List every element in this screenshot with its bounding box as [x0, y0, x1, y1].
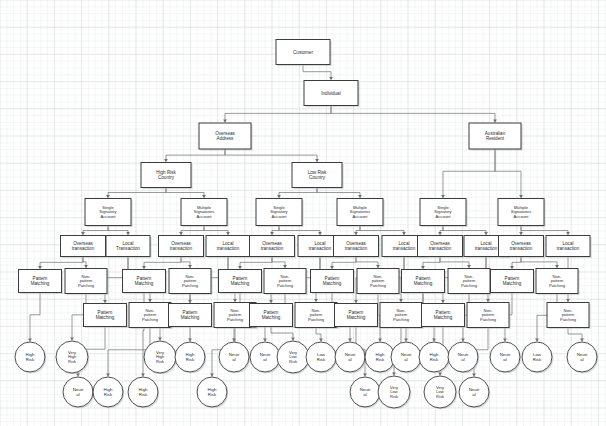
node-label: PatternMatching — [414, 276, 433, 286]
node-np-5[interactable]: Non-patternPatching — [264, 269, 308, 296]
node-pm-4[interactable]: PatternMatching — [169, 304, 214, 329]
node-label: Low RiskCountry — [308, 170, 327, 180]
node-ot-6[interactable]: Overseastransaction — [499, 236, 546, 259]
node-label: Overseastransaction — [261, 241, 284, 251]
node-label: PatternMatching — [96, 310, 115, 320]
node-np-2[interactable]: Non-patternPatching — [129, 303, 173, 330]
node-np-10[interactable]: Non-patternPatching — [467, 303, 511, 330]
leaf-label: HighRisk — [103, 387, 113, 397]
leaf-leaf-8[interactable]: HighRisk — [197, 377, 228, 408]
node-label: PatternMatching — [231, 276, 250, 286]
node-high-risk-country[interactable]: High RiskCountry — [141, 163, 193, 190]
leaf-leaf-6[interactable]: VeryHighRisk — [144, 341, 177, 374]
node-ssa-3[interactable]: SingleSignatoryAccount — [420, 199, 468, 228]
leaf-leaf-3[interactable]: Neutral — [63, 377, 94, 408]
leaf-layer: HighRiskVeryHighRiskNeutralHighRiskHighR… — [15, 341, 598, 409]
node-label: PatternMatching — [323, 276, 342, 286]
node-ot-4[interactable]: Overseastransaction — [334, 236, 381, 259]
node-label: Overseastransaction — [170, 241, 193, 251]
node-pm-2[interactable]: PatternMatching — [84, 304, 129, 329]
node-overseas-address[interactable]: OverseasAddress — [199, 123, 253, 151]
node-label: Overseastransaction — [510, 241, 533, 251]
leaf-label: VeryHighRisk — [68, 350, 76, 364]
node-lt-2[interactable]: Localtransaction — [206, 236, 252, 259]
leaf-label: HighRisk — [185, 352, 195, 362]
leaf-label: LowRisk — [533, 352, 542, 362]
node-label: Individual — [321, 91, 340, 96]
node-australian-resident[interactable]: AustralianResident — [469, 123, 523, 151]
leaf-label: HighRisk — [375, 352, 385, 362]
node-ssa-1[interactable]: SingleSignatoryAccount — [85, 199, 133, 228]
node-label: Overseastransaction — [429, 241, 452, 251]
node-pm-7[interactable]: PatternMatching — [311, 270, 356, 295]
node-np-9[interactable]: Non-patternPatching — [448, 269, 492, 296]
node-individual[interactable]: Individual — [304, 81, 360, 108]
node-ot-5[interactable]: Overseastransaction — [418, 236, 465, 259]
node-ot-1[interactable]: Overseastransaction — [61, 236, 108, 259]
leaf-leaf-15[interactable]: Neutral — [350, 377, 381, 408]
node-pm-8[interactable]: PatternMatching — [335, 304, 380, 329]
node-np-12[interactable]: Non-patternPatching — [547, 303, 591, 330]
node-label: PatternMatching — [181, 310, 200, 320]
leaf-label: VeryLowRisk — [289, 350, 297, 364]
leaf-label: HighRisk — [138, 387, 148, 397]
node-np-3[interactable]: Non-patternPatching — [169, 269, 213, 296]
node-label: PatternMatching — [347, 310, 366, 320]
leaf-leaf-5[interactable]: HighRisk — [128, 377, 159, 408]
node-label: PatternMatching — [503, 276, 522, 286]
node-pm-1[interactable]: PatternMatching — [19, 270, 64, 295]
node-label: Overseastransaction — [345, 241, 368, 251]
node-pm-9[interactable]: PatternMatching — [402, 270, 447, 295]
node-np-7[interactable]: Non-patternPatching — [357, 269, 401, 296]
node-np-6[interactable]: Non-patternPatching — [295, 303, 339, 330]
node-msa-3[interactable]: MultipleSignatoriesAccount — [498, 199, 546, 228]
leaf-label: VeryLowRisk — [436, 385, 444, 399]
node-lt-1[interactable]: LocalTransaction — [106, 236, 152, 259]
node-label: PatternMatching — [135, 276, 154, 286]
leaf-label: VeryHighRisk — [156, 350, 164, 364]
node-label: Customer — [293, 50, 313, 55]
node-customer[interactable]: Customer — [276, 40, 332, 67]
leaf-leaf-4[interactable]: HighRisk — [93, 377, 124, 408]
node-ot-2[interactable]: Overseastransaction — [159, 236, 206, 259]
node-pm-6[interactable]: PatternMatching — [250, 304, 295, 329]
node-ssa-2[interactable]: SingleSignatoryAccount — [256, 199, 304, 228]
leaf-label: HighRisk — [207, 387, 217, 397]
node-pm-3[interactable]: PatternMatching — [123, 270, 168, 295]
decision-tree-diagram: CustomerIndividualOverseasAddressAustral… — [0, 0, 606, 426]
node-msa-2[interactable]: MultipleSignatoriesAccount — [337, 199, 385, 228]
leaf-label: LowRisk — [317, 352, 326, 362]
node-layer: CustomerIndividualOverseasAddressAustral… — [19, 40, 592, 330]
node-label: OverseasAddress — [215, 131, 235, 141]
node-msa-1[interactable]: MultipleSignatoriesAccount — [181, 199, 229, 228]
node-np-8[interactable]: Non-patternPatching — [380, 303, 424, 330]
node-label: PatternMatching — [31, 276, 50, 286]
leaf-label: VeryLowRisk — [390, 385, 398, 399]
node-pm-11[interactable]: PatternMatching — [491, 270, 536, 295]
node-label: High RiskCountry — [156, 170, 176, 180]
node-lt-6[interactable]: Localtransaction — [546, 236, 592, 259]
leaf-label: HighRisk — [429, 352, 439, 362]
node-label: PatternMatching — [434, 310, 453, 320]
node-np-11[interactable]: Non-patternPatching — [536, 269, 580, 296]
node-label: PatternMatching — [262, 310, 281, 320]
node-label: AustralianResident — [485, 131, 506, 141]
leaf-label: HighRisk — [25, 352, 35, 362]
leaf-leaf-11[interactable]: VeryLowRisk — [277, 341, 310, 374]
node-pm-10[interactable]: PatternMatching — [422, 304, 467, 329]
node-low-risk-country[interactable]: Low RiskCountry — [292, 163, 344, 190]
node-label: Overseastransaction — [72, 241, 95, 251]
node-ot-3[interactable]: Overseastransaction — [250, 236, 297, 259]
node-pm-5[interactable]: PatternMatching — [219, 270, 264, 295]
node-np-1[interactable]: Non-patternPatching — [65, 269, 109, 296]
leaf-leaf-21[interactable]: Neutral — [459, 377, 490, 408]
